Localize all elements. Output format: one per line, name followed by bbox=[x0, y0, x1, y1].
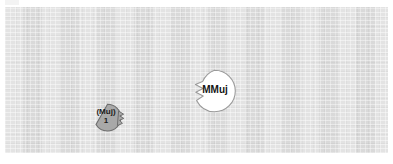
node-muj1[interactable]: (Muj) 1 bbox=[93, 103, 127, 133]
node-mmuj-label-line1: MMuj bbox=[196, 84, 234, 95]
node-muj1-labels: (Muj) 1 bbox=[91, 107, 121, 125]
node-muj1-label-line1: (Muj) bbox=[91, 107, 121, 116]
diagram-canvas[interactable]: (Muj) 1 MMuj bbox=[5, 7, 388, 153]
top-edge-artifact bbox=[5, 0, 19, 5]
node-mmuj[interactable]: MMuj bbox=[191, 69, 235, 113]
node-mmuj-labels: MMuj bbox=[196, 84, 234, 95]
screenshot-root: (Muj) 1 MMuj bbox=[0, 0, 393, 164]
node-muj1-label-line2: 1 bbox=[91, 116, 121, 125]
